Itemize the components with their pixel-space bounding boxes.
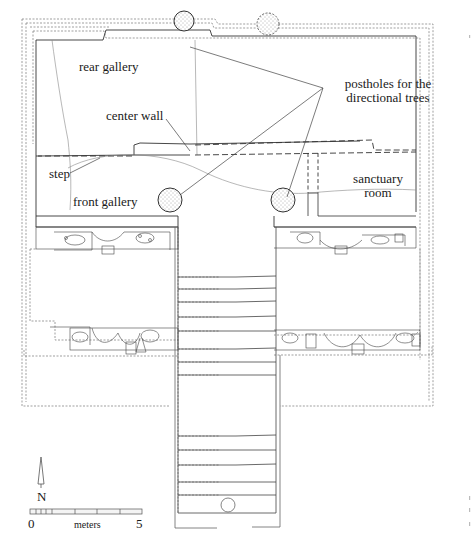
label-rear-gallery: rear gallery xyxy=(79,60,139,74)
center-wall-dashed xyxy=(36,140,416,156)
sanctuary-partition xyxy=(308,153,318,193)
label-postholes-line2: directional trees xyxy=(328,91,448,105)
stairway xyxy=(175,227,280,528)
middle-outline xyxy=(30,249,420,340)
label-sanctuary-room: sanctuary room xyxy=(342,172,414,200)
posthole-front-left xyxy=(158,188,182,212)
scale-bar-end: 5 xyxy=(136,516,143,532)
north-arrow xyxy=(38,457,44,488)
label-sanctuary-line1: sanctuary xyxy=(342,172,414,186)
label-step: step xyxy=(49,167,70,181)
posthole-front-right xyxy=(271,188,295,212)
stairway-steps xyxy=(178,276,276,495)
posthole-rear-right xyxy=(257,13,279,35)
scale-bar-unit: meters xyxy=(74,519,101,530)
label-postholes-line1: postholes for the xyxy=(328,77,448,91)
stairway-base-circle xyxy=(221,498,235,512)
stairway-step-dashes xyxy=(178,227,220,513)
front-gallery-walls xyxy=(36,212,416,227)
platform-base-outline xyxy=(24,346,432,356)
label-center-wall: center wall xyxy=(106,109,163,123)
center-wall xyxy=(38,141,360,156)
upper-frieze xyxy=(36,227,416,254)
posthole-rear-left xyxy=(174,11,194,31)
label-postholes: postholes for the directional trees xyxy=(328,77,448,105)
scale-bar xyxy=(30,509,142,514)
edge-marks xyxy=(469,35,470,526)
scale-bar-start: 0 xyxy=(28,516,35,532)
north-arrow-label: N xyxy=(37,489,46,505)
postholes xyxy=(158,11,295,212)
label-sanctuary-line2: room xyxy=(342,186,414,200)
label-front-gallery: front gallery xyxy=(73,195,138,209)
